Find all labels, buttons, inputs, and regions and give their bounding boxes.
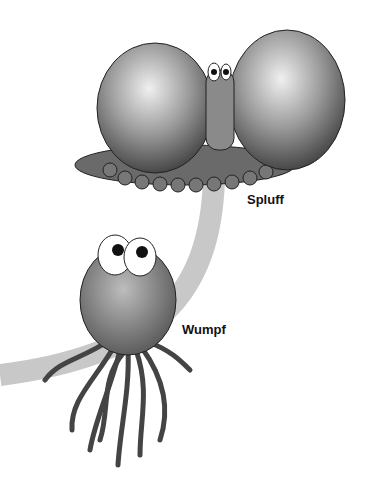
- spluff-label: Spluff: [247, 192, 284, 207]
- illustration: Spluff Wumpf: [0, 0, 374, 486]
- spluff-creature: [75, 30, 345, 192]
- wumpf-label: Wumpf: [182, 322, 226, 337]
- evolution-band: [0, 0, 374, 486]
- wumpf-creature: [45, 235, 190, 465]
